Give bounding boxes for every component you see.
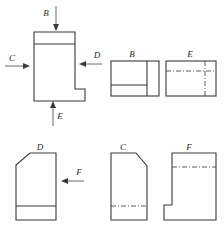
arrow-d: D: [79, 50, 102, 67]
arrow-f-head: [61, 178, 68, 184]
view-b-label: B: [129, 49, 135, 59]
main-view-outline: [34, 32, 85, 101]
main-front-view: [34, 32, 85, 101]
view-b: B: [111, 49, 159, 96]
view-d-label: D: [36, 142, 44, 152]
arrow-f: F: [61, 167, 84, 184]
view-f-label: F: [185, 142, 192, 152]
view-c-label: C: [120, 142, 127, 152]
arrow-b-label: B: [43, 8, 49, 18]
orthographic-drawing: B C D E B E: [0, 0, 224, 227]
view-e-label: E: [186, 49, 193, 59]
arrow-f-label: F: [75, 167, 82, 177]
view-d: D: [16, 142, 56, 220]
arrow-c-label: C: [9, 53, 16, 63]
view-d-outline: [16, 153, 56, 220]
arrow-b-head: [53, 24, 59, 31]
view-c: C: [111, 142, 147, 220]
arrow-c: C: [5, 53, 30, 69]
arrow-b: B: [43, 6, 59, 31]
arrow-e-head: [50, 101, 56, 108]
view-f: F: [164, 142, 216, 220]
view-b-outline: [111, 61, 159, 96]
view-f-outline: [164, 153, 216, 220]
view-e: E: [166, 49, 216, 96]
drawing-page: B C D E B E: [0, 0, 224, 227]
arrow-c-head: [23, 63, 30, 69]
arrow-e-label: E: [56, 111, 63, 121]
arrow-d-label: D: [93, 50, 101, 60]
view-c-outline: [111, 153, 147, 220]
arrow-d-head: [79, 61, 86, 67]
arrow-e: E: [50, 101, 63, 126]
view-e-outline: [166, 61, 216, 96]
